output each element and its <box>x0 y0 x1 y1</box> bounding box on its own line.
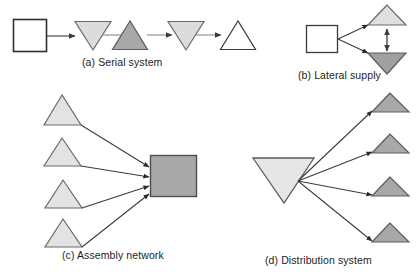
arrow-c1-c5 <box>81 125 149 167</box>
node-c2-triangle-up <box>44 138 81 166</box>
arrow-d1-d2 <box>298 111 372 181</box>
node-d3-triangle-up <box>372 134 409 153</box>
arrow-b1-b3 <box>338 39 368 53</box>
figure-canvas <box>0 0 417 279</box>
node-a2-triangle-down <box>75 22 111 51</box>
arrow-c3-c5 <box>82 186 149 208</box>
node-c3-triangle-up <box>45 180 82 208</box>
node-a1-square <box>14 20 47 52</box>
arrow-b1-b2 <box>338 25 368 39</box>
panel-d-caption: (d) Distribution system <box>265 254 372 266</box>
panel-a-caption: (a) Serial system <box>82 56 162 68</box>
arrow-d1-d5 <box>298 181 372 241</box>
node-b1-square <box>307 26 338 53</box>
supply-chain-topology-figure: (a) Serial system (b) Lateral supply (c)… <box>0 0 417 279</box>
arrow-c2-c5 <box>81 166 149 177</box>
panel-b-caption: (b) Lateral supply <box>298 69 381 81</box>
panel-c-caption: (c) Assembly network <box>62 249 164 261</box>
node-d4-triangle-up <box>372 177 409 196</box>
node-a4-triangle-down <box>168 22 204 51</box>
node-c5-square <box>151 156 197 197</box>
panel-d-distribution-system <box>253 93 409 242</box>
node-d2-triangle-up <box>372 93 409 112</box>
node-c4-triangle-up <box>45 219 82 247</box>
panel-c-assembly-network <box>44 95 197 247</box>
node-b2-triangle-up <box>368 5 406 25</box>
node-c1-triangle-up <box>44 95 81 125</box>
panel-a-serial-system <box>14 20 256 52</box>
arrow-c4-c5 <box>82 194 149 247</box>
node-d1-triangle-down <box>253 158 314 203</box>
node-d5-triangle-up <box>372 223 409 242</box>
panel-b-lateral-supply <box>307 5 407 74</box>
arrow-d1-d4 <box>298 181 372 195</box>
node-a5-triangle-up <box>221 21 256 50</box>
